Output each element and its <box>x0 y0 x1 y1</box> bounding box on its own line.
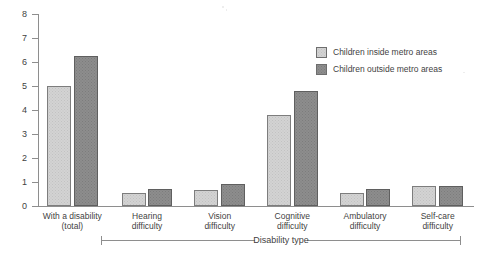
bar <box>194 190 218 206</box>
bar <box>74 56 98 206</box>
bar <box>267 115 291 206</box>
y-axis-tick-label: 0 <box>0 202 27 211</box>
legend-item-inside: Children inside metro areas <box>316 45 442 59</box>
x-axis-category-label-line: difficulty <box>390 221 486 231</box>
y-axis-tick-label: 7 <box>0 34 27 43</box>
y-axis-tick-label: 1 <box>0 178 27 187</box>
bar <box>439 186 463 206</box>
bar <box>340 193 364 206</box>
legend-swatch-inside-icon <box>316 47 327 58</box>
legend-item-outside: Children outside metro areas <box>316 62 442 76</box>
scan-artifact <box>222 6 224 8</box>
y-axis-tick-label: 4 <box>0 106 27 115</box>
bar <box>221 184 245 206</box>
legend: Children inside metro areas Children out… <box>316 45 442 79</box>
bar <box>412 186 436 206</box>
x-axis-line <box>38 206 474 207</box>
bar <box>47 86 71 206</box>
scan-artifact <box>226 9 227 11</box>
bar <box>122 193 146 206</box>
x-axis-title: Disability type <box>101 236 461 245</box>
legend-label-outside: Children outside metro areas <box>333 64 442 74</box>
bar-chart: 012345678 With a disability(total)Hearin… <box>0 0 488 253</box>
bar <box>148 189 172 206</box>
legend-swatch-outside-icon <box>316 64 327 75</box>
bar <box>366 189 390 206</box>
y-axis-tick-label: 2 <box>0 154 27 163</box>
bar <box>294 91 318 206</box>
y-axis-tick-label: 3 <box>0 130 27 139</box>
y-axis-tick-label: 8 <box>0 10 27 19</box>
y-axis-tick <box>32 206 38 207</box>
plot-area <box>38 14 474 206</box>
x-axis-category-label-line: Self-care <box>390 211 486 221</box>
axis-group-bracket: Disability type <box>101 236 461 246</box>
y-axis-tick-label: 6 <box>0 58 27 67</box>
x-axis-category-label: Self-caredifficulty <box>390 211 486 231</box>
y-axis-tick-label: 5 <box>0 82 27 91</box>
legend-label-inside: Children inside metro areas <box>333 47 437 57</box>
